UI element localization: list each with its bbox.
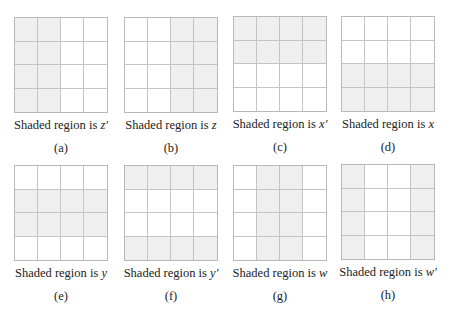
shaded-cell — [38, 18, 61, 42]
shaded-cell — [15, 42, 38, 66]
unshaded-cell — [342, 41, 365, 65]
unshaded-cell — [234, 88, 257, 112]
shaded-cell — [38, 42, 61, 66]
caption-text: Shaded region is — [339, 265, 425, 279]
shaded-cell — [280, 41, 303, 65]
shaded-cell — [194, 18, 217, 42]
shaded-cell — [171, 42, 194, 66]
unshaded-cell — [234, 237, 257, 261]
caption-text: Shaded region is — [124, 266, 210, 280]
unshaded-cell — [303, 190, 326, 214]
grid-4x4 — [341, 16, 435, 112]
unshaded-cell — [84, 237, 107, 261]
variable: w′ — [426, 265, 437, 279]
shaded-cell — [194, 65, 217, 89]
shaded-cell — [411, 64, 434, 88]
shaded-cell — [388, 88, 411, 112]
caption-text: Shaded region is — [14, 118, 100, 132]
unshaded-cell — [388, 236, 411, 260]
shaded-cell — [234, 17, 257, 41]
caption-text: Shaded region is — [125, 118, 211, 132]
shaded-cell — [257, 41, 280, 65]
unshaded-cell — [303, 213, 326, 237]
unshaded-cell — [148, 89, 171, 113]
unshaded-cell — [365, 212, 388, 236]
unshaded-cell — [234, 166, 257, 190]
shaded-cell — [38, 65, 61, 89]
unshaded-cell — [280, 88, 303, 112]
unshaded-cell — [61, 237, 84, 261]
unshaded-cell — [84, 89, 107, 113]
unshaded-cell — [84, 166, 107, 190]
unshaded-cell — [15, 166, 38, 190]
variable: y — [101, 266, 107, 280]
shaded-cell — [342, 88, 365, 112]
shaded-cell — [171, 166, 194, 190]
shaded-cell — [342, 236, 365, 260]
shaded-cell — [84, 213, 107, 237]
shaded-cell — [15, 190, 38, 214]
shaded-cell — [171, 237, 194, 261]
unshaded-cell — [234, 213, 257, 237]
shaded-cell — [257, 213, 280, 237]
unshaded-cell — [194, 190, 217, 214]
shaded-cell — [411, 212, 434, 236]
shaded-cell — [411, 236, 434, 260]
variable: x′ — [319, 117, 327, 131]
grid-4x4 — [14, 17, 108, 113]
unshaded-cell — [388, 165, 411, 189]
unshaded-cell — [148, 65, 171, 89]
unshaded-cell — [342, 17, 365, 41]
caption: Shaded region is x — [333, 117, 443, 132]
shaded-cell — [388, 64, 411, 88]
shaded-cell — [411, 88, 434, 112]
shaded-cell — [342, 212, 365, 236]
unshaded-cell — [411, 41, 434, 65]
shaded-cell — [257, 190, 280, 214]
unshaded-cell — [84, 65, 107, 89]
shaded-cell — [194, 42, 217, 66]
shaded-cell — [342, 189, 365, 213]
unshaded-cell — [15, 237, 38, 261]
shaded-cell — [411, 189, 434, 213]
shaded-cell — [171, 18, 194, 42]
unshaded-cell — [303, 237, 326, 261]
variable: w — [319, 266, 327, 280]
unshaded-cell — [411, 17, 434, 41]
unshaded-cell — [388, 41, 411, 65]
shaded-cell — [365, 88, 388, 112]
unshaded-cell — [388, 212, 411, 236]
shaded-cell — [15, 213, 38, 237]
shaded-cell — [194, 166, 217, 190]
shaded-cell — [257, 17, 280, 41]
variable: z′ — [100, 118, 108, 132]
unshaded-cell — [125, 65, 148, 89]
panel-label: (a) — [6, 141, 116, 156]
unshaded-cell — [125, 213, 148, 237]
panel-label: (g) — [225, 289, 335, 304]
unshaded-cell — [171, 213, 194, 237]
unshaded-cell — [234, 64, 257, 88]
unshaded-cell — [84, 42, 107, 66]
unshaded-cell — [148, 190, 171, 214]
unshaded-cell — [84, 18, 107, 42]
caption: Shaded region is x′ — [225, 117, 335, 132]
unshaded-cell — [234, 190, 257, 214]
caption: Shaded region is z — [116, 118, 226, 133]
variable: z — [212, 118, 217, 132]
unshaded-cell — [303, 166, 326, 190]
unshaded-cell — [61, 18, 84, 42]
shaded-cell — [411, 165, 434, 189]
shaded-cell — [148, 166, 171, 190]
unshaded-cell — [171, 190, 194, 214]
caption: Shaded region is z′ — [6, 118, 116, 133]
caption: Shaded region is w′ — [333, 265, 443, 280]
unshaded-cell — [125, 89, 148, 113]
unshaded-cell — [61, 42, 84, 66]
shaded-cell — [280, 166, 303, 190]
variable: y′ — [210, 266, 218, 280]
caption-text: Shaded region is — [233, 117, 319, 131]
shaded-cell — [148, 237, 171, 261]
unshaded-cell — [303, 88, 326, 112]
shaded-cell — [280, 17, 303, 41]
